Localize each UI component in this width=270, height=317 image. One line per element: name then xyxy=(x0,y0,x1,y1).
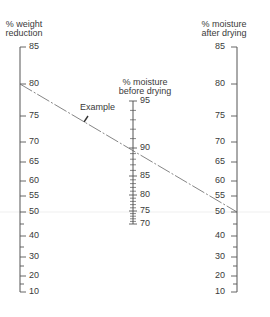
tick-label-moisture_before: 70 xyxy=(140,219,150,228)
tick-label-moisture_before: 95 xyxy=(140,96,150,105)
tick-label-weight_reduction: 55 xyxy=(29,191,39,200)
tick-label-weight_reduction: 40 xyxy=(29,231,39,240)
tick-label-moisture_after: 80 xyxy=(215,79,225,88)
tick-label-moisture_before: 85 xyxy=(140,171,150,180)
example-label: Example xyxy=(80,103,115,112)
scale-title-weight_reduction: % weightreduction xyxy=(0,20,54,38)
tick-label-moisture_after: 65 xyxy=(215,157,225,166)
tick-label-moisture_after: 85 xyxy=(215,42,225,51)
tick-label-weight_reduction: 85 xyxy=(29,42,39,51)
tick-label-moisture_after: 60 xyxy=(215,176,225,185)
tick-label-moisture_after: 70 xyxy=(215,137,225,146)
tick-label-moisture_before: 75 xyxy=(140,206,150,215)
tick-label-moisture_after: 55 xyxy=(215,191,225,200)
tick-label-moisture_before: 80 xyxy=(140,190,150,199)
example-line xyxy=(20,84,237,212)
tick-label-weight_reduction: 50 xyxy=(29,207,39,216)
tick-label-moisture_after: 30 xyxy=(215,252,225,261)
tick-label-weight_reduction: 80 xyxy=(29,79,39,88)
example-pointer-arrow xyxy=(84,116,88,122)
tick-label-weight_reduction: 20 xyxy=(29,271,39,280)
tick-label-weight_reduction: 30 xyxy=(29,252,39,261)
tick-label-moisture_after: 50 xyxy=(215,207,225,216)
tick-label-weight_reduction: 70 xyxy=(29,137,39,146)
scale-title-moisture_after: % moistureafter drying xyxy=(194,20,254,38)
tick-label-weight_reduction: 60 xyxy=(29,176,39,185)
tick-label-moisture_after: 20 xyxy=(215,271,225,280)
tick-label-moisture_after: 75 xyxy=(215,111,225,120)
tick-label-moisture_after: 40 xyxy=(215,231,225,240)
tick-label-weight_reduction: 10 xyxy=(29,287,39,296)
scale-title-moisture_before: % moisturebefore drying xyxy=(115,78,175,96)
tick-label-moisture_after: 10 xyxy=(215,287,225,296)
nomogram-canvas xyxy=(0,0,270,317)
tick-label-moisture_before: 90 xyxy=(140,143,150,152)
tick-label-weight_reduction: 65 xyxy=(29,157,39,166)
tick-label-weight_reduction: 75 xyxy=(29,111,39,120)
